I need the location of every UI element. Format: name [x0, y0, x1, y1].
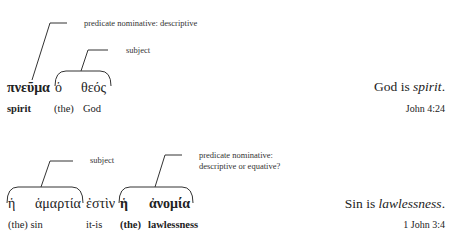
translation-punct: .	[442, 196, 445, 211]
reference-1: John 4:24	[406, 103, 445, 114]
annotation-subject-2: subject	[90, 155, 114, 166]
gloss-the: (the)	[54, 103, 74, 114]
greek-word-anomia: ἀνομία	[149, 196, 190, 212]
translation-emphasis: spirit	[413, 79, 442, 94]
greek-word-hamartia: ἁμαρτία	[35, 196, 81, 212]
greek-word-he-2: ἡ	[120, 196, 128, 212]
greek-word-estin: ἐστὶν	[86, 196, 115, 212]
translation-punct: .	[442, 79, 445, 94]
gloss-spirit: spirit	[7, 103, 31, 114]
translation-2: Sin is lawlessness.	[345, 196, 445, 212]
translation-1: God is spirit.	[374, 79, 445, 95]
subject-leader-line-1	[81, 50, 108, 71]
annotation-predicate-nominative: predicate nominative: descriptive	[84, 18, 197, 29]
gloss-lawlessness: lawlessness	[148, 219, 198, 230]
annotation-predicate-line2: descriptive or equative?	[199, 161, 280, 172]
reference-2: 1 John 3:4	[403, 219, 445, 230]
gloss-the-2: (the)	[120, 219, 141, 230]
predicate-leader-line-2	[155, 155, 182, 187]
annotation-predicate-line1: predicate nominative:	[199, 150, 273, 161]
annotation-subject: subject	[126, 45, 150, 56]
greek-word-theos: θεός	[81, 80, 106, 96]
subject-leader-line-2	[41, 161, 73, 187]
gloss-it-is: it-is	[86, 219, 102, 230]
gloss-god: God	[83, 103, 101, 114]
translation-emphasis: lawlessness	[379, 196, 442, 211]
gloss-the-sin: (the) sin	[8, 219, 43, 230]
greek-word-ho: ὁ	[55, 80, 62, 96]
translation-text: Sin is	[345, 196, 379, 211]
greek-word-he: ἡ	[8, 196, 15, 212]
translation-text: God is	[374, 79, 413, 94]
greek-word-pneuma: πνεῦμα	[7, 80, 50, 96]
